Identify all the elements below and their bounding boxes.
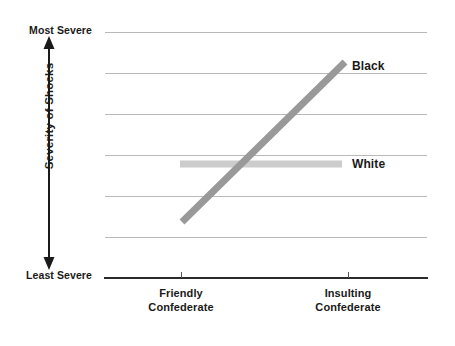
x-axis-label-friendly: Friendly Confederate	[121, 286, 241, 314]
x-axis-label-insulting-line2: Confederate	[288, 300, 408, 314]
x-axis-line	[104, 277, 428, 279]
y-axis-group: Most Severe Severity of Shocks Least Sev…	[0, 0, 100, 300]
series-label-white: White	[352, 157, 385, 171]
x-axis-label-friendly-line1: Friendly	[121, 286, 241, 300]
x-axis-tick-friendly	[181, 272, 182, 278]
gridline	[105, 114, 427, 115]
gridline	[105, 237, 427, 238]
y-axis-top-label: Most Severe	[0, 24, 92, 36]
x-axis-label-friendly-line2: Confederate	[121, 300, 241, 314]
gridline	[105, 32, 427, 33]
y-axis-bottom-label: Least Severe	[0, 269, 92, 281]
series-label-black: Black	[352, 59, 385, 73]
x-axis-label-insulting-line1: Insulting	[288, 286, 408, 300]
x-axis-label-insulting: Insulting Confederate	[288, 286, 408, 314]
gridline	[105, 155, 427, 156]
x-axis-tick-insulting	[348, 272, 349, 278]
chart-container: Most Severe Severity of Shocks Least Sev…	[0, 0, 455, 346]
gridline	[105, 73, 427, 74]
gridline	[105, 196, 427, 197]
y-axis-title: Severity of Shocks	[43, 51, 55, 181]
